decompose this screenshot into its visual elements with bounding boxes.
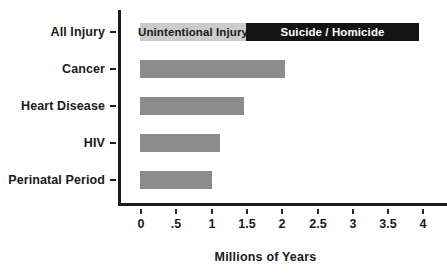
x-tick-4 xyxy=(281,209,283,214)
x-axis-title-text: Millions of Years xyxy=(215,250,317,264)
category-label-cancer: Cancer xyxy=(0,60,105,78)
x-tick-1 xyxy=(175,209,177,214)
x-tick-0 xyxy=(140,209,142,214)
bar-segment-label-unintentional-injury: Unintentional Injury xyxy=(138,26,248,38)
bar-segment-unintentional-injury[interactable]: Unintentional Injury xyxy=(140,23,246,41)
bar-segment-label-suicide-homicide: Suicide / Homicide xyxy=(280,26,384,38)
y-axis-line xyxy=(118,10,121,206)
y-tick-cancer xyxy=(110,68,116,70)
y-tick-all-injury xyxy=(110,31,116,33)
x-tick-label-3: 1.5 xyxy=(227,217,267,231)
x-tick-label-0: 0 xyxy=(121,217,161,231)
x-axis-line xyxy=(118,203,447,206)
x-tick-8 xyxy=(422,209,424,214)
category-label-heart-disease: Heart Disease xyxy=(0,97,105,115)
bar-cancer[interactable] xyxy=(140,60,285,78)
y-tick-hiv xyxy=(110,142,116,144)
bar-hiv[interactable] xyxy=(140,134,220,152)
x-tick-label-2: 1 xyxy=(192,217,232,231)
bar-chart: All Injury Unintentional Injury Suicide … xyxy=(0,0,447,274)
x-tick-label-4: 2 xyxy=(262,217,302,231)
x-tick-6 xyxy=(352,209,354,214)
x-tick-label-7: 3.5 xyxy=(368,217,408,231)
bar-perinatal-period[interactable] xyxy=(140,171,212,189)
category-label-perinatal-period: Perinatal Period xyxy=(0,171,105,189)
category-label-hiv: HIV xyxy=(0,134,105,152)
bar-heart-disease[interactable] xyxy=(140,97,244,115)
y-tick-perinatal-period xyxy=(110,179,116,181)
x-tick-label-1: .5 xyxy=(156,217,196,231)
x-axis-title: Millions of Years xyxy=(0,250,447,264)
category-label-all-injury: All Injury xyxy=(0,23,105,41)
x-tick-2 xyxy=(211,209,213,214)
x-tick-3 xyxy=(246,209,248,214)
y-tick-heart-disease xyxy=(110,105,116,107)
x-tick-7 xyxy=(387,209,389,214)
x-tick-5 xyxy=(317,209,319,214)
x-tick-label-8: 4 xyxy=(403,217,443,231)
x-tick-label-6: 3 xyxy=(333,217,373,231)
x-tick-label-5: 2.5 xyxy=(298,217,338,231)
bar-segment-suicide-homicide[interactable]: Suicide / Homicide xyxy=(246,23,419,41)
